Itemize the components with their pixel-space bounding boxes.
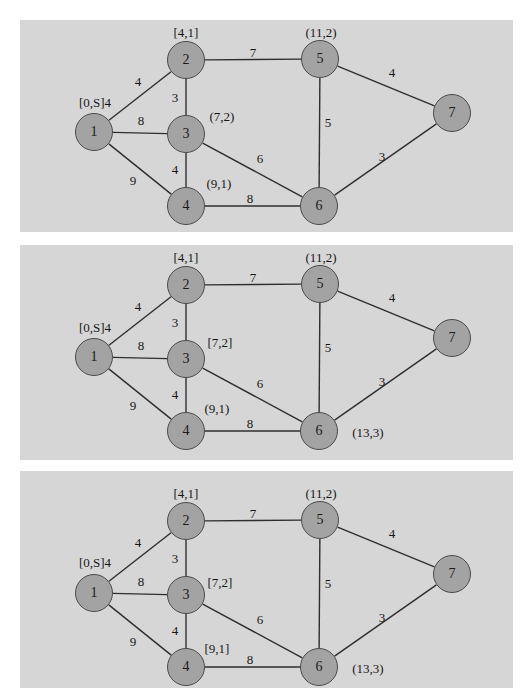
edge-weight-label: 5 [325, 116, 332, 130]
graph-diagram-2: 489374685431234567[0,S]4[4,1][7,2](9,1)(… [20, 245, 513, 460]
node-annotation-2: [4,1] [174, 487, 199, 501]
graph-node-3: 3 [167, 115, 205, 153]
node-annotation-4: [9,1] [205, 642, 230, 656]
page-canvas: 489374685431234567[0,S]4[4,1](7,2)(9,1)(… [0, 0, 529, 700]
graph-node-1: 1 [75, 338, 113, 376]
graph-node-2: 2 [167, 266, 205, 304]
edge-weight-label: 7 [250, 507, 257, 521]
graph-node-3: 3 [167, 340, 205, 378]
graph-edge [109, 369, 171, 419]
graph-node-1: 1 [75, 113, 113, 151]
edge-weight-label: 9 [130, 399, 137, 413]
graph-node-7: 7 [433, 94, 471, 132]
graph-panel-1: 489374685431234567[0,S]4[4,1](7,2)(9,1)(… [20, 20, 513, 232]
node-annotation-3: [7,2] [208, 336, 233, 350]
graph-node-4: 4 [167, 412, 205, 450]
edge-weight-label: 4 [172, 624, 179, 638]
edge-weight-label: 8 [247, 417, 254, 431]
edge-weight-label: 4 [389, 291, 396, 305]
graph-node-7: 7 [433, 555, 471, 593]
edge-weight-label: 3 [172, 91, 179, 105]
graph-edge [113, 593, 167, 594]
node-annotation-5: (11,2) [306, 251, 337, 265]
edge-weight-label: 4 [389, 66, 396, 80]
edge-weight-label: 4 [135, 300, 142, 314]
edge-weight-label: 6 [257, 377, 264, 391]
graph-panel-3: 489374685431234567[0,S]4[4,1][7,2][9,1](… [20, 471, 513, 688]
edge-weight-label: 3 [172, 552, 179, 566]
graph-edge [113, 357, 167, 358]
node-annotation-6: (13,3) [352, 662, 383, 676]
node-annotation-1: [0,S]4 [79, 556, 111, 570]
graph-diagram-1: 489374685431234567[0,S]4[4,1](7,2)(9,1)(… [20, 20, 513, 232]
graph-node-6: 6 [300, 648, 338, 686]
graph-panel-2: 489374685431234567[0,S]4[4,1][7,2](9,1)(… [20, 245, 513, 460]
graph-edge [109, 144, 171, 194]
page-header-fragment [6, 0, 124, 8]
graph-edge [113, 132, 167, 133]
graph-node-6: 6 [300, 187, 338, 225]
graph-node-6: 6 [300, 412, 338, 450]
edge-weight-label: 8 [138, 339, 145, 353]
node-annotation-1: [0,S]4 [79, 321, 111, 335]
graph-edge [335, 585, 437, 656]
graph-node-5: 5 [301, 40, 339, 78]
edge-weight-label: 9 [130, 174, 137, 188]
graph-node-1: 1 [75, 574, 113, 612]
edge-weight-label: 4 [172, 388, 179, 402]
edge-weight-label: 4 [389, 527, 396, 541]
edge-weight-label: 7 [250, 271, 257, 285]
graph-node-5: 5 [301, 501, 339, 539]
graph-edge [338, 291, 435, 331]
graph-node-2: 2 [167, 502, 205, 540]
graph-node-4: 4 [167, 648, 205, 686]
edge-weight-label: 7 [250, 46, 257, 60]
graph-diagram-3: 489374685431234567[0,S]4[4,1][7,2][9,1](… [20, 471, 513, 688]
graph-edge [109, 605, 171, 655]
edge-weight-label: 8 [138, 575, 145, 589]
edge-weight-label: 8 [247, 653, 254, 667]
edge-weight-label: 5 [325, 577, 332, 591]
node-annotation-1: [0,S]4 [79, 96, 111, 110]
graph-node-4: 4 [167, 187, 205, 225]
node-annotation-5: (11,2) [306, 26, 337, 40]
edge-weight-label: 8 [138, 114, 145, 128]
edge-weight-label: 3 [379, 150, 386, 164]
edge-weight-label: 5 [325, 341, 332, 355]
edge-weight-label: 6 [257, 613, 264, 627]
graph-edge [338, 527, 435, 567]
node-annotation-4: (9,1) [205, 402, 230, 416]
node-annotation-3: [7,2] [208, 576, 233, 590]
graph-node-5: 5 [301, 265, 339, 303]
graph-edge [335, 124, 437, 195]
edge-weight-label: 3 [172, 316, 179, 330]
edge-weight-label: 8 [247, 192, 254, 206]
graph-node-2: 2 [167, 41, 205, 79]
graph-edge [319, 539, 320, 648]
edge-weight-label: 4 [135, 75, 142, 89]
graph-edge [335, 349, 437, 420]
edge-weight-label: 3 [379, 375, 386, 389]
edge-weight-label: 9 [130, 635, 137, 649]
edge-weight-label: 4 [135, 536, 142, 550]
node-annotation-6: (13,3) [352, 426, 383, 440]
edge-weight-label: 3 [379, 611, 386, 625]
node-annotation-4: (9,1) [207, 177, 232, 191]
node-annotation-3: (7,2) [210, 110, 235, 124]
node-annotation-5: (11,2) [306, 487, 337, 501]
edge-weight-label: 4 [172, 163, 179, 177]
graph-node-7: 7 [433, 319, 471, 357]
graph-edge [338, 66, 435, 106]
graph-edge [319, 303, 320, 412]
node-annotation-2: [4,1] [174, 251, 199, 265]
graph-edge [319, 78, 320, 187]
node-annotation-2: [4,1] [174, 26, 199, 40]
edge-weight-label: 6 [257, 152, 264, 166]
graph-node-3: 3 [167, 576, 205, 614]
